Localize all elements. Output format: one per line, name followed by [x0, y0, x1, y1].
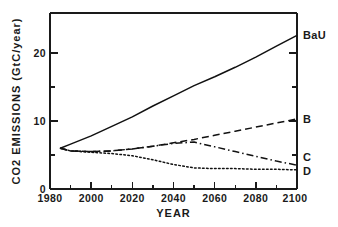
- series-label-b: B: [303, 113, 311, 125]
- x-tick-label-1980: 1980: [38, 192, 63, 204]
- x-tick-label-2100: 2100: [283, 192, 308, 204]
- series-label-bau: BaU: [303, 29, 326, 41]
- y-tick-label-20: 20: [34, 47, 46, 59]
- x-tick-label-2000: 2000: [79, 192, 104, 204]
- series-line-c: [60, 142, 297, 165]
- x-tick-label-2040: 2040: [161, 192, 186, 204]
- series-label-d: D: [303, 165, 311, 177]
- x-tick-label-2080: 2080: [243, 192, 268, 204]
- chart-canvas: 0 10 20 1980 2000 2020 2040 2060 2080 21…: [0, 0, 338, 227]
- x-tick-labels: 1980 2000 2020 2040 2060 2080 2100: [38, 192, 308, 204]
- series-line-b: [60, 119, 297, 152]
- x-tick-label-2020: 2020: [120, 192, 145, 204]
- x-tick-label-2060: 2060: [202, 192, 227, 204]
- x-axis-title: YEAR: [156, 207, 191, 219]
- y-tick-labels: 0 10 20: [34, 47, 46, 195]
- y-axis-title: CO2 EMISSIONS (GtC/year): [10, 17, 22, 184]
- co2-emissions-chart: 0 10 20 1980 2000 2020 2040 2060 2080 21…: [0, 0, 338, 227]
- series-line-bau: [60, 35, 297, 148]
- y-tick-label-10: 10: [34, 115, 46, 127]
- x-axis-ticks: [50, 182, 297, 189]
- series-paths: [60, 35, 297, 170]
- axes-frame: [50, 13, 297, 189]
- series-labels: BaU B C D: [303, 29, 326, 177]
- series-label-c: C: [303, 151, 311, 163]
